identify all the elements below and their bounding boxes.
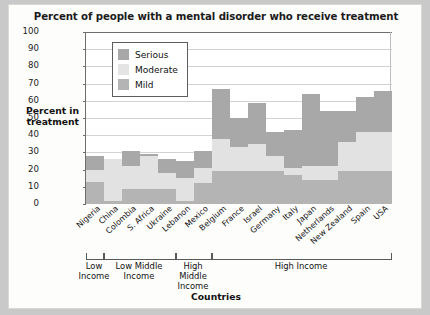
- y-tick-label: 10: [0, 181, 39, 191]
- bar-segment-serious: [302, 94, 320, 166]
- legend-item-mild: Mild: [118, 77, 178, 92]
- bar-france: [230, 32, 248, 204]
- y-tick-label: 90: [0, 43, 39, 53]
- bar-segment-serious: [86, 156, 104, 170]
- bar-segment-moderate: [86, 170, 104, 182]
- group-bracket: [86, 253, 104, 260]
- group-bracket: [176, 253, 212, 260]
- chart-title: Percent of people with a mental disorder…: [9, 11, 423, 22]
- bar-segment-serious: [320, 111, 338, 166]
- bar-netherlands: [320, 32, 338, 204]
- group-bracket: [104, 253, 176, 260]
- bar-segment-serious: [176, 161, 194, 178]
- bar-nigeria: [86, 32, 104, 204]
- x-axis-title: Countries: [9, 291, 423, 302]
- bar-segment-serious: [266, 132, 284, 156]
- bar-segment-moderate: [320, 166, 338, 180]
- bar-germany: [266, 32, 284, 204]
- y-tick-label: 30: [0, 146, 39, 156]
- y-tick-label: 40: [0, 129, 39, 139]
- bar-segment-moderate: [194, 168, 212, 183]
- chart-figure: Percent of people with a mental disorder…: [8, 4, 422, 309]
- bar-mexico: [194, 32, 212, 204]
- x-axis-tick-labels: NigeriaChinaColombiaS. AfricaUkraineLeba…: [85, 204, 391, 250]
- y-tick-label: 70: [0, 78, 39, 88]
- bar-segment-moderate: [212, 139, 230, 172]
- group-bracket: [212, 253, 392, 260]
- legend-label-moderate: Moderate: [135, 65, 178, 75]
- bar-segment-moderate: [356, 132, 374, 172]
- bar-segment-serious: [212, 89, 230, 139]
- legend-swatch-mild-icon: [118, 79, 129, 90]
- bar-segment-serious: [194, 151, 212, 168]
- y-tick-label: 50: [0, 112, 39, 122]
- bar-segment-moderate: [302, 166, 320, 180]
- y-tick-label: 80: [0, 60, 39, 70]
- legend-label-mild: Mild: [135, 80, 153, 90]
- bar-segment-moderate: [284, 168, 302, 175]
- y-tick-label: 20: [0, 164, 39, 174]
- y-tick-label: 100: [0, 26, 39, 36]
- bar-israel: [248, 32, 266, 204]
- bar-segment-serious: [338, 111, 356, 142]
- bar-segment-serious: [158, 159, 176, 173]
- bar-segment-moderate: [248, 144, 266, 172]
- plot-area: Serious Moderate Mild: [85, 32, 391, 204]
- bar-segment-serious: [284, 130, 302, 168]
- bar-italy: [284, 32, 302, 204]
- legend-swatch-moderate-icon: [118, 64, 129, 75]
- bar-segment-moderate: [230, 147, 248, 171]
- bar-segment-moderate: [374, 132, 392, 172]
- bar-segment-serious: [356, 97, 374, 131]
- bar-segment-serious: [374, 91, 392, 132]
- legend-swatch-serious-icon: [118, 49, 129, 60]
- group-label: Low Middle Income: [104, 261, 174, 281]
- bar-segment-serious: [140, 154, 158, 156]
- legend-item-moderate: Moderate: [118, 62, 178, 77]
- legend-item-serious: Serious: [118, 47, 178, 62]
- group-label: High Income: [212, 261, 390, 271]
- bar-belgium: [212, 32, 230, 204]
- y-tick-label: 60: [0, 95, 39, 105]
- bar-segment-serious: [230, 118, 248, 147]
- bar-new-zealand: [338, 32, 356, 204]
- bar-segment-serious: [248, 103, 266, 144]
- bar-japan: [302, 32, 320, 204]
- y-tick-label: 0: [0, 198, 39, 208]
- chart-legend: Serious Moderate Mild: [112, 42, 188, 97]
- bar-segment-moderate: [338, 142, 356, 171]
- bar-segment-moderate: [266, 156, 284, 171]
- group-label: High Middle Income: [171, 261, 215, 291]
- legend-label-serious: Serious: [135, 50, 168, 60]
- bar-segment-moderate: [122, 166, 140, 188]
- bar-segment-serious: [122, 151, 140, 166]
